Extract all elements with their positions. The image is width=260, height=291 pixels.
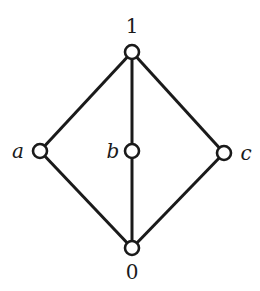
label-bottom: 0 [126, 260, 139, 284]
label-top: 1 [126, 14, 139, 38]
node-b [125, 144, 139, 158]
hasse-diagram: 1 a b c 0 [0, 0, 260, 291]
edge-top-c [132, 52, 224, 153]
label-b: b [107, 139, 120, 163]
label-c: c [240, 141, 251, 165]
node-bottom [125, 241, 139, 255]
node-top [125, 45, 139, 59]
edge-a-bottom [40, 151, 132, 248]
node-a [33, 144, 47, 158]
edge-c-bottom [132, 153, 224, 248]
node-c [217, 146, 231, 160]
label-a: a [12, 139, 24, 163]
edge-top-a [40, 52, 132, 151]
